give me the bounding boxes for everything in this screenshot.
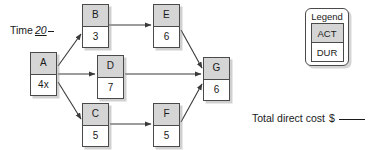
node-a[interactable]: A 4x bbox=[30, 52, 57, 96]
node-d-activity: D bbox=[98, 56, 123, 78]
node-a-activity: A bbox=[31, 53, 56, 75]
legend-activity-cell: ACT bbox=[312, 24, 343, 43]
node-d-duration: 7 bbox=[98, 78, 123, 99]
legend: Legend ACT DUR bbox=[305, 8, 349, 66]
node-b[interactable]: B 3 bbox=[82, 4, 109, 48]
edge-a-to-b bbox=[58, 34, 81, 66]
node-a-duration: 4x bbox=[31, 75, 56, 96]
node-c[interactable]: C 5 bbox=[82, 103, 109, 147]
node-g-activity: G bbox=[204, 58, 229, 80]
node-b-duration: 3 bbox=[83, 27, 108, 48]
node-d[interactable]: D 7 bbox=[97, 55, 124, 99]
legend-sample-node: ACT DUR bbox=[311, 23, 344, 62]
total-direct-cost-blank[interactable] bbox=[339, 119, 365, 120]
network-diagram-canvas: Time20 A 4x B 3 C 5 D 7 E 6 F 5 G 6 Lege… bbox=[0, 0, 378, 150]
node-e[interactable]: E 6 bbox=[153, 4, 180, 48]
total-direct-cost-label: Total direct cost bbox=[252, 112, 325, 124]
node-e-activity: E bbox=[154, 5, 179, 27]
node-e-duration: 6 bbox=[154, 27, 179, 48]
edge-a-to-c bbox=[58, 82, 81, 119]
node-g-duration: 6 bbox=[204, 80, 229, 101]
node-f-activity: F bbox=[154, 104, 179, 126]
time-underline bbox=[48, 31, 54, 32]
node-f[interactable]: F 5 bbox=[153, 103, 180, 147]
node-c-duration: 5 bbox=[83, 126, 108, 147]
node-f-duration: 5 bbox=[154, 126, 179, 147]
legend-duration-cell: DUR bbox=[312, 43, 343, 61]
node-c-activity: C bbox=[83, 104, 108, 126]
legend-title: Legend bbox=[311, 10, 343, 23]
time-value: 20 bbox=[33, 24, 48, 36]
node-g[interactable]: G 6 bbox=[203, 57, 230, 101]
edge-e-to-g bbox=[181, 30, 202, 68]
total-direct-cost: Total direct cost$ bbox=[252, 112, 365, 124]
time-annotation: Time20 bbox=[10, 24, 54, 36]
node-b-activity: B bbox=[83, 5, 108, 27]
currency-symbol: $ bbox=[325, 112, 335, 124]
time-label: Time bbox=[10, 24, 33, 36]
edge-f-to-g bbox=[181, 84, 202, 122]
